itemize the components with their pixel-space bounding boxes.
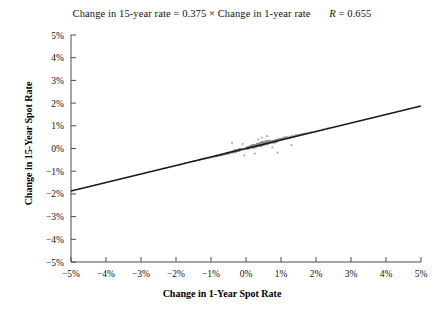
x-tick-label: −5%	[62, 269, 80, 279]
x-tick-label: 5%	[415, 269, 428, 279]
y-tick-label: 3%	[51, 76, 64, 86]
y-tick-label: 0%	[51, 144, 64, 154]
y-tick-label: −1%	[46, 167, 64, 177]
y-tick-label: 5%	[51, 31, 64, 41]
y-tick-label: 2%	[51, 99, 64, 109]
x-tick-label: −4%	[97, 269, 115, 279]
y-tick-labels: 5%4%3%2%1%0%−1%−2%−3%−4%−5%	[46, 31, 64, 268]
y-tick-label: −2%	[46, 189, 64, 199]
y-tick-label: −5%	[46, 258, 64, 268]
y-tick-label: 1%	[51, 121, 64, 131]
data-point	[291, 144, 293, 146]
data-point	[261, 137, 263, 139]
y-tick-label: 4%	[51, 53, 64, 63]
x-tick-label: 1%	[275, 269, 288, 279]
data-point	[260, 142, 262, 144]
plot-area: −5%−4%−3%−2%−1%0%1%2%3%4%5% 5%4%3%2%1%0%…	[0, 0, 444, 318]
x-tick-label: −2%	[167, 269, 185, 279]
x-tick-label: 3%	[345, 269, 358, 279]
x-tick-label: 4%	[380, 269, 393, 279]
regression-line	[71, 106, 421, 191]
y-tick-label: −3%	[46, 212, 64, 222]
x-tick-label: 0%	[240, 269, 253, 279]
x-axis-title: Change in 1-Year Spot Rate	[0, 288, 444, 299]
data-point	[257, 143, 259, 145]
data-point	[266, 135, 268, 137]
y-axis-title: Change in 15-Year Spot Rate	[23, 44, 34, 244]
data-point	[277, 152, 279, 154]
data-point	[257, 139, 259, 141]
x-tick-label: −1%	[202, 269, 220, 279]
x-tick-label: −3%	[132, 269, 150, 279]
x-axis-ticks	[71, 257, 421, 262]
x-tick-labels: −5%−4%−3%−2%−1%0%1%2%3%4%5%	[62, 269, 427, 279]
data-point	[271, 147, 273, 149]
x-tick-label: 2%	[310, 269, 323, 279]
data-point	[231, 142, 233, 144]
data-point	[242, 143, 244, 145]
data-point	[254, 153, 256, 155]
y-axis-ticks	[71, 35, 76, 262]
y-tick-label: −4%	[46, 235, 64, 245]
data-point	[243, 155, 245, 157]
scatter-chart: Change in 15-year rate = 0.375 × Change …	[0, 0, 444, 318]
